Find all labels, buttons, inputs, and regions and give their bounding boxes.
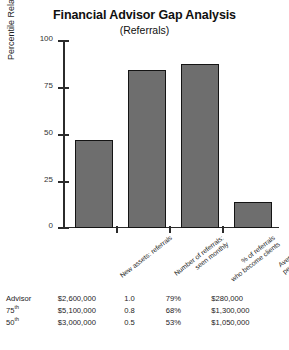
y-tick-50: 50 [58,134,69,136]
y-tick-label-100: 100 [40,34,53,43]
cell-advisor-pct-clients: 79% [166,292,212,304]
cell-50th-num-referrals: 0.5 [124,316,165,328]
cell-75th-num-referrals: 0.8 [124,304,165,316]
row-label-advisor: Advisor [6,292,58,304]
bar-average-assets-referral [234,202,272,228]
x-label-line-1: New assets: referrals [119,234,174,279]
row-label-sup: th [14,304,19,310]
financial-advisor-gap-analysis-chart: Financial Advisor Gap Analysis (Referral… [0,0,289,350]
cell-50th-avg-assets: $1,050,000 [211,316,284,328]
cell-50th-pct-clients: 53% [166,316,212,328]
x-label-average-assets-referral: Average assets per new referral [276,234,289,277]
cell-75th-new-assets: $5,100,000 [58,304,124,316]
y-tick-label-50: 50 [44,128,53,137]
x-tick-2 [169,226,171,233]
row-label-75th: 75th [6,304,58,316]
cell-50th-new-assets: $3,000,000 [58,316,124,328]
y-tick-25: 25 [58,181,69,183]
y-tick-0: 0 [58,227,69,229]
bar-number-of-referrals [128,70,166,228]
y-axis-title: Percentile Relative to Benchmark [6,0,16,60]
y-tick-label-75: 75 [44,81,53,90]
cell-75th-avg-assets: $1,300,000 [211,304,284,316]
row-label-50th: 50th [6,316,58,328]
x-label-new-assets-referrals: New assets: referrals [119,234,175,280]
x-label-pct-referrals-clients: % of referrals who become clients [225,234,282,284]
x-tick-3 [222,226,224,233]
cell-advisor-avg-assets: $280,000 [211,292,284,304]
plot-area: 100 75 50 25 0 [63,40,279,228]
y-tick-75: 75 [58,87,69,89]
table-row: Advisor $2,600,000 1.0 79% $280,000 [6,292,284,304]
cell-75th-pct-clients: 68% [166,304,212,316]
cell-advisor-new-assets: $2,600,000 [58,292,124,304]
y-tick-label-25: 25 [44,175,53,184]
table-row: 50th $3,000,000 0.5 53% $1,050,000 [6,316,284,328]
bar-new-assets-referrals [75,140,113,228]
row-label-sup: th [14,316,19,322]
chart-title: Financial Advisor Gap Analysis [0,8,289,22]
row-label-text: Advisor [6,294,31,303]
x-tick-1 [116,226,118,233]
bar-pct-referrals-clients [181,64,219,228]
chart-data-table: Advisor $2,600,000 1.0 79% $280,000 75th… [6,292,284,329]
x-label-number-of-referrals: Number of referrals: seen monthly [173,234,231,285]
cell-advisor-num-referrals: 1.0 [124,292,165,304]
table-row: 75th $5,100,000 0.8 68% $1,300,000 [6,304,284,316]
x-label-line-1: Average assets [277,234,289,268]
y-tick-label-0: 0 [49,221,53,230]
y-tick-100: 100 [58,40,69,42]
